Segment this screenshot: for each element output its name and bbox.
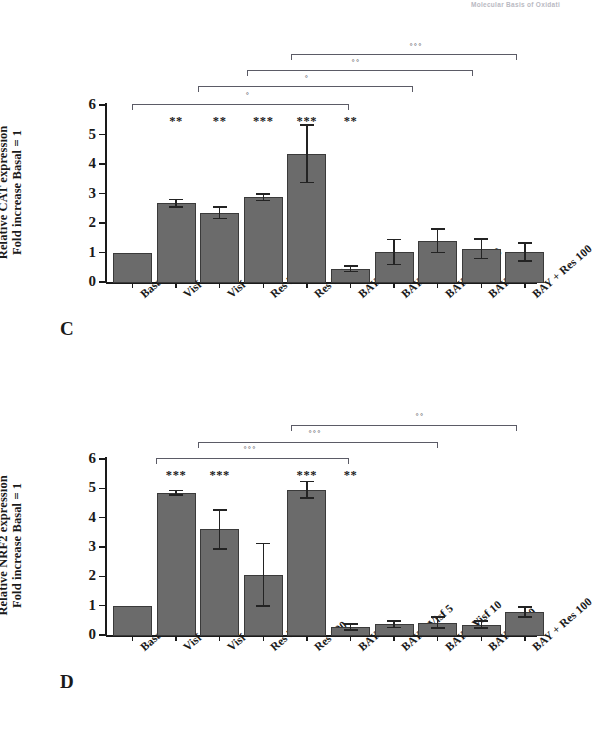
error-bar-line [263, 543, 265, 606]
y-axis-tick-label: 5 [74, 480, 96, 495]
error-bar-cap-bottom [387, 627, 401, 629]
comparison-bracket-symbol-4: °°° [409, 43, 422, 51]
significance-stars-2: ** [169, 115, 183, 128]
error-bar-cap-top [387, 239, 401, 241]
comparison-bracket-symbol-3: °° [352, 59, 361, 67]
y-axis-tick-label: 3 [74, 539, 96, 554]
y-axis-tick [99, 193, 106, 195]
x-axis-tick [219, 636, 220, 641]
error-bar-line [219, 510, 221, 549]
comparison-bracket-right-tick-2 [437, 442, 438, 448]
page-header: Molecular Basis of Oxidati [0, 1, 570, 8]
comparison-bracket-symbol-1: ° [246, 92, 250, 100]
y-axis-tick [99, 222, 106, 224]
x-axis-tick [263, 283, 264, 288]
comparison-bracket-3 [247, 70, 472, 71]
comparison-bracket-left-tick-1 [156, 458, 157, 464]
bar-res-50 [244, 197, 283, 283]
comparison-bracket-right-tick-3 [516, 425, 517, 431]
error-bar-cap-bottom [518, 616, 532, 618]
y-axis-title: Relative NRF2 expressionFold increase Ba… [0, 450, 24, 640]
y-axis-tick-label: 2 [74, 568, 96, 583]
x-axis-tick [263, 636, 264, 641]
bar-basal [113, 253, 152, 284]
error-bar-cap-bottom [256, 605, 270, 607]
error-bar-cap-bottom [474, 258, 488, 260]
error-bar-cap-top [474, 238, 488, 240]
error-bar-cap-top [169, 199, 183, 201]
error-bar-cap-top [256, 193, 270, 195]
panel-letter-d: D [60, 671, 74, 693]
x-axis-tick [481, 636, 482, 641]
x-axis-tick [219, 283, 220, 288]
y-axis-tick-label: 4 [74, 510, 96, 525]
x-axis-tick [350, 636, 351, 641]
comparison-bracket-left-tick-1 [132, 104, 133, 110]
comparison-bracket-4 [291, 54, 516, 55]
comparison-bracket-right-tick-1 [348, 458, 349, 464]
x-axis-tick [132, 283, 133, 288]
comparison-bracket-3 [291, 425, 516, 426]
y-axis-tick-label: 5 [74, 127, 96, 142]
x-axis-tick [350, 283, 351, 288]
y-axis-tick [99, 252, 106, 254]
error-bar-cap-bottom [169, 494, 183, 496]
error-bar-line [437, 229, 439, 253]
error-bar-cap-bottom [387, 264, 401, 266]
y-axis-title: Relative CAT expressionFold increase Bas… [0, 97, 24, 287]
comparison-bracket-1 [156, 458, 348, 459]
panel-c-cat-chart: 0123456Relative CAT expressionFold incre… [0, 18, 570, 368]
error-bar-cap-top [213, 206, 227, 208]
y-axis-tick-label: 0 [74, 627, 96, 642]
comparison-bracket-left-tick-4 [291, 54, 292, 60]
x-axis-tick [393, 283, 394, 288]
y-axis-tick-label: 0 [74, 274, 96, 289]
error-bar-line [306, 125, 308, 183]
comparison-bracket-right-tick-1 [348, 104, 349, 110]
y-axis-tick [99, 104, 106, 106]
x-axis-tick [306, 283, 307, 288]
error-bar-cap-bottom [431, 252, 445, 254]
x-axis-tick [393, 636, 394, 641]
y-axis-tick-label: 3 [74, 186, 96, 201]
x-axis-tick [437, 636, 438, 641]
y-axis-tick-label: 1 [74, 245, 96, 260]
y-axis-tick-label: 6 [74, 97, 96, 112]
x-axis-tick [437, 283, 438, 288]
y-axis-tick [99, 634, 106, 636]
bar-visf-5 [157, 203, 196, 283]
x-axis-tick [481, 283, 482, 288]
y-axis-tick [99, 134, 106, 136]
bar-visf-10 [200, 213, 239, 283]
error-bar-line [306, 482, 308, 498]
bar-basal [113, 606, 152, 636]
significance-stars-3: *** [209, 469, 230, 482]
panel-letter-c: C [60, 318, 74, 340]
error-bar-cap-top [387, 620, 401, 622]
y-axis-tick [99, 576, 106, 578]
y-axis-tick [99, 281, 106, 283]
error-bar-cap-top [344, 265, 358, 267]
comparison-bracket-left-tick-2 [198, 86, 199, 92]
y-axis-title-line1: Relative NRF2 expression [0, 450, 10, 640]
x-axis-tick [524, 636, 525, 641]
error-bar-cap-top [256, 543, 270, 545]
y-axis-title-line2: Fold increase Basal = 1 [10, 97, 24, 287]
error-bar-cap-bottom [213, 548, 227, 550]
y-axis-tick-label: 6 [74, 451, 96, 466]
y-axis-tick-label: 2 [74, 215, 96, 230]
comparison-bracket-right-tick-2 [412, 86, 413, 92]
y-axis-tick-label: 4 [74, 156, 96, 171]
error-bar-cap-top [344, 623, 358, 625]
bar-visf-5 [157, 493, 196, 636]
error-bar-cap-top [474, 620, 488, 622]
significance-stars-3: ** [213, 115, 227, 128]
y-axis-tick [99, 546, 106, 548]
y-axis-tick [99, 458, 106, 460]
error-bar-cap-bottom [169, 206, 183, 208]
comparison-bracket-2 [198, 442, 437, 443]
error-bar-line [481, 239, 483, 258]
comparison-bracket-symbol-2: ° [305, 75, 309, 83]
significance-stars-2: *** [166, 469, 187, 482]
error-bar-cap-top [169, 490, 183, 492]
